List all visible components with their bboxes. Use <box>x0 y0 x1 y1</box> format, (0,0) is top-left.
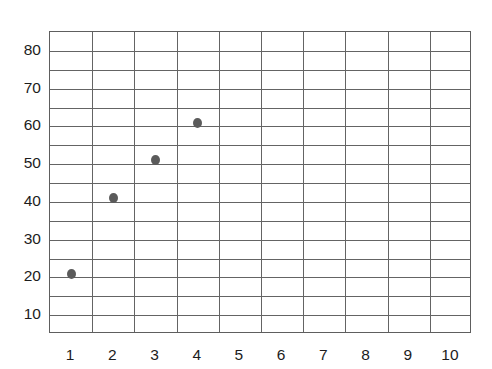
gridline-vertical <box>177 32 178 332</box>
plot-area <box>49 31 471 333</box>
x-tick-label: 5 <box>235 347 244 363</box>
gridline-horizontal <box>50 51 470 52</box>
data-point <box>193 118 202 128</box>
gridline-vertical <box>134 32 135 332</box>
y-tick-label: 30 <box>24 231 41 247</box>
gridline-horizontal <box>50 108 470 109</box>
x-tick-label: 3 <box>150 347 159 363</box>
y-tick-label: 10 <box>24 306 41 322</box>
scatter-chart: 8070605040302010 12345678910 <box>0 0 492 369</box>
x-tick-label: 2 <box>108 347 117 363</box>
x-tick-label: 6 <box>277 347 286 363</box>
gridline-vertical <box>92 32 93 332</box>
gridline-horizontal <box>50 145 470 146</box>
x-axis-tick-labels: 12345678910 <box>49 347 471 367</box>
gridline-vertical <box>219 32 220 332</box>
gridline-horizontal <box>50 296 470 297</box>
gridline-horizontal <box>50 164 470 165</box>
gridline-horizontal <box>50 221 470 222</box>
x-tick-label: 8 <box>361 347 370 363</box>
gridline-vertical <box>261 32 262 332</box>
gridline-vertical <box>388 32 389 332</box>
data-point <box>109 193 118 203</box>
gridline-horizontal <box>50 259 470 260</box>
gridline-horizontal <box>50 240 470 241</box>
x-tick-label: 10 <box>441 347 458 363</box>
gridline-vertical <box>430 32 431 332</box>
gridline-vertical <box>345 32 346 332</box>
y-tick-label: 80 <box>24 42 41 58</box>
y-tick-label: 20 <box>24 269 41 285</box>
y-tick-label: 60 <box>24 118 41 134</box>
gridline-horizontal <box>50 70 470 71</box>
y-tick-label: 50 <box>24 155 41 171</box>
gridline-horizontal <box>50 183 470 184</box>
x-tick-label: 1 <box>66 347 75 363</box>
y-tick-label: 70 <box>24 80 41 96</box>
gridline-vertical <box>303 32 304 332</box>
gridline-horizontal <box>50 315 470 316</box>
data-point <box>67 269 76 279</box>
x-tick-label: 9 <box>403 347 412 363</box>
y-axis-tick-labels: 8070605040302010 <box>0 31 41 333</box>
x-tick-label: 4 <box>192 347 201 363</box>
y-tick-label: 40 <box>24 193 41 209</box>
gridline-horizontal <box>50 277 470 278</box>
x-tick-label: 7 <box>319 347 328 363</box>
gridline-horizontal <box>50 89 470 90</box>
gridline-horizontal <box>50 126 470 127</box>
